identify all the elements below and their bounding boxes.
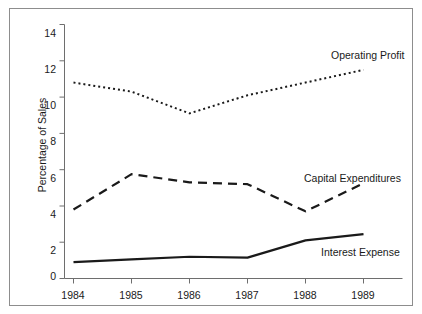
axes: [60, 25, 403, 284]
plot-area: [10, 9, 414, 307]
series-line-capital-expenditures: [74, 174, 364, 211]
chart-frame: Percentage of Sales 14 12 10 8 6 4 2 0 1…: [9, 8, 413, 306]
chart-figure: Percentage of Sales 14 12 10 8 6 4 2 0 1…: [0, 0, 422, 314]
series-line-operating-profit: [74, 70, 364, 114]
series-line-interest-expense: [74, 234, 364, 262]
